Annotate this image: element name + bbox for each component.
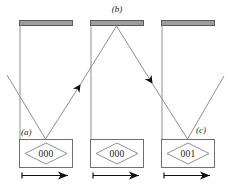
outgoing-ray-a [46, 85, 81, 139]
panel-b: (b) 000 [80, 4, 152, 179]
counter-value-a: 000 [38, 149, 53, 159]
incoming-ray-c [152, 83, 188, 139]
mirror-bar-icon-a [20, 21, 73, 26]
panel-label-c: (c) [196, 125, 206, 135]
ray-diagram-svg: (a) 000 (b) 000 [0, 0, 235, 190]
mirror-bar-icon-c [162, 21, 215, 26]
counter-value-c: 001 [180, 149, 195, 159]
figure-container: (a) 000 (b) 000 [0, 0, 235, 190]
panel-c: (c) 001 [152, 21, 224, 179]
reflected-ray-b [117, 26, 153, 83]
counter-value-b: 000 [109, 149, 124, 159]
ray-to-mirror-b [80, 26, 117, 85]
panel-label-b: (b) [112, 4, 123, 14]
mirror-bar-icon-b [91, 21, 144, 26]
panel-a: (a) 000 [7, 21, 80, 179]
panel-label-a: (a) [21, 127, 32, 137]
